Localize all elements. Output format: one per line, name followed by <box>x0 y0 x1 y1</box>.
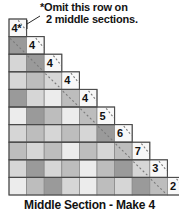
patch-cell <box>9 160 27 178</box>
patch-cell <box>9 125 27 143</box>
patch-cell <box>79 160 97 178</box>
step-number: 2 <box>170 181 176 192</box>
patch-cell <box>27 142 45 160</box>
patch-cell <box>97 142 115 160</box>
patch-cell <box>27 72 45 90</box>
step-number: 4 <box>82 93 88 104</box>
patch-cell <box>62 107 80 125</box>
patch-cell <box>115 160 133 178</box>
patch-cell <box>44 142 62 160</box>
patch-cell <box>44 160 62 178</box>
patch-cell <box>97 177 115 195</box>
patch-cell <box>79 142 97 160</box>
patch-cell <box>44 177 62 195</box>
patch-cell <box>44 125 62 143</box>
patch-cell <box>27 107 45 125</box>
patch-cell <box>9 72 27 90</box>
patch-cell <box>115 177 133 195</box>
patch-cell <box>62 125 80 143</box>
step-number: 4 <box>64 75 70 86</box>
leader-line-group <box>27 16 40 29</box>
patch-cell <box>44 89 62 107</box>
quilt-staircase-svg <box>0 0 179 211</box>
patch-cell <box>27 125 45 143</box>
patch-cell <box>79 177 97 195</box>
patch-cell <box>9 177 27 195</box>
step-number: 6 <box>117 128 123 139</box>
patch-cell <box>62 177 80 195</box>
patch-cell <box>27 177 45 195</box>
omit-note-line-2: 2 middle sections. <box>46 13 138 25</box>
figure-caption: Middle Section - Make 4 <box>0 198 179 211</box>
callout-leader-line <box>27 16 40 29</box>
patch-cell <box>97 160 115 178</box>
patch-cell <box>132 177 150 195</box>
patch-cell <box>9 89 27 107</box>
patch-cell <box>9 142 27 160</box>
patch-cell <box>27 160 45 178</box>
patch-cell <box>62 160 80 178</box>
omit-note-line-1: *Omit this row on <box>40 1 128 13</box>
step-number: 4 <box>29 40 35 51</box>
step-number: 5 <box>100 111 106 122</box>
step-number: 3 <box>152 163 158 174</box>
step-number: 7 <box>135 146 141 157</box>
step-number: 4 <box>47 58 53 69</box>
diagram-canvas: *Omit this row on 2 middle sections. 4*4… <box>0 0 179 211</box>
patch-cell <box>9 54 27 72</box>
patch-cell <box>9 107 27 125</box>
patch-cell <box>27 89 45 107</box>
patch-cell <box>79 125 97 143</box>
patch-cell <box>44 107 62 125</box>
patch-cell <box>62 142 80 160</box>
step-number: 4* <box>12 23 22 34</box>
